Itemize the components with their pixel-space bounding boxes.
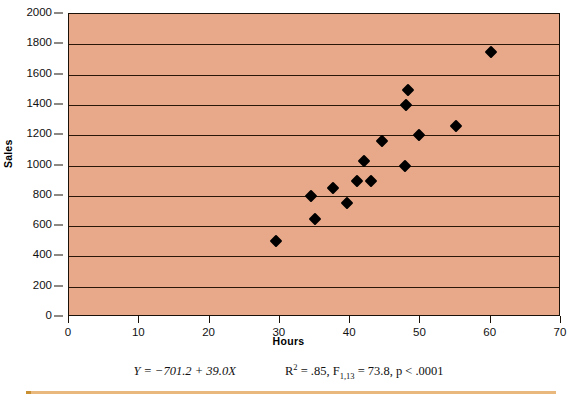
- y-tick-label-2000: 2000: [26, 7, 52, 19]
- y-tick-mark-2000: [54, 13, 63, 14]
- data-point: [309, 212, 322, 225]
- regression-equation: Y = −701.2 + 39.0X: [133, 364, 235, 378]
- gridline-1800: [69, 44, 559, 45]
- x-tick-mark-20: [209, 316, 210, 323]
- gridline-400: [69, 256, 559, 257]
- y-tick-mark-1400: [54, 103, 63, 104]
- y-tick-mark-600: [54, 225, 63, 226]
- data-point: [449, 120, 462, 133]
- data-point: [402, 83, 415, 96]
- data-point: [340, 197, 353, 210]
- y-tick-label-1800: 1800: [26, 38, 52, 50]
- f-symbol: F: [333, 364, 340, 378]
- f-value-and-p: = 73.8, p < .0001: [355, 364, 444, 378]
- y-tick-mark-1800: [54, 43, 63, 44]
- gridline-1400: [69, 105, 559, 106]
- y-tick-label-1600: 1600: [26, 68, 52, 80]
- scatterplot-figure: 0200400600800100012001400160018002000 Sa…: [0, 0, 577, 400]
- data-point: [270, 235, 283, 248]
- x-tick-mark-30: [279, 316, 280, 323]
- data-point: [365, 174, 378, 187]
- y-tick-label-1400: 1400: [26, 98, 52, 110]
- bottom-divider-cap: [26, 391, 31, 394]
- gridline-1200: [69, 135, 559, 136]
- y-tick-mark-1000: [54, 164, 63, 165]
- x-tick-mark-50: [419, 316, 420, 323]
- x-tick-mark-40: [349, 316, 350, 323]
- data-point: [413, 129, 426, 142]
- y-tick-label-400: 400: [33, 250, 52, 262]
- x-tick-mark-70: [560, 316, 561, 323]
- data-point: [400, 99, 413, 112]
- data-point: [375, 135, 388, 148]
- x-tick-mark-10: [138, 316, 139, 323]
- plot-area: [68, 13, 560, 316]
- y-tick-label-1000: 1000: [26, 159, 52, 171]
- data-point: [399, 159, 412, 172]
- r-squared-value: = .85,: [298, 364, 333, 378]
- data-point: [326, 182, 339, 195]
- regression-statistics: R2 = .85, F1,13 = 73.8, p < .0001: [285, 362, 444, 381]
- data-point: [351, 174, 364, 187]
- y-tick-mark-800: [54, 194, 63, 195]
- gridline-1600: [69, 75, 559, 76]
- y-tick-label-600: 600: [33, 219, 52, 231]
- x-tick-mark-0: [68, 316, 69, 323]
- x-tick-mark-60: [490, 316, 491, 323]
- y-tick-label-1200: 1200: [26, 128, 52, 140]
- bottom-divider-rule: [26, 391, 556, 394]
- gridline-1000: [69, 166, 559, 167]
- y-tick-mark-1200: [54, 134, 63, 135]
- gridline-600: [69, 226, 559, 227]
- r-squared-symbol: R: [285, 364, 293, 378]
- y-tick-mark-400: [54, 255, 63, 256]
- y-tick-mark-200: [54, 285, 63, 286]
- regression-caption: Y = −701.2 + 39.0X R2 = .85, F1,13 = 73.…: [0, 362, 577, 381]
- gridline-200: [69, 287, 559, 288]
- y-axis-title: Sales: [2, 140, 14, 168]
- y-tick-mark-1600: [54, 73, 63, 74]
- data-point: [484, 46, 497, 59]
- x-axis-title: Hours: [0, 335, 577, 347]
- y-tick-label-200: 200: [33, 280, 52, 292]
- f-degrees-of-freedom: 1,13: [340, 371, 355, 381]
- y-tick-label-800: 800: [33, 189, 52, 201]
- data-point: [305, 189, 318, 202]
